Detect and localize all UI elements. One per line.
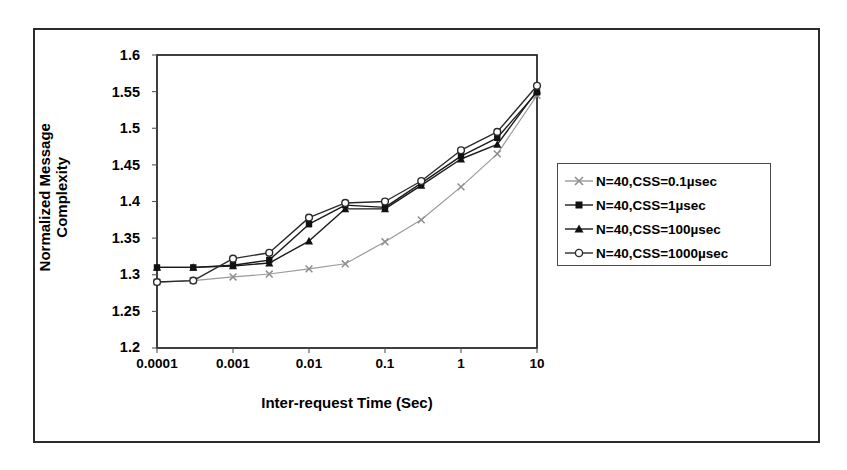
- series-1: [154, 89, 540, 270]
- legend-marker-square-icon: [564, 196, 594, 214]
- legend: N=40,CSS=0.1µsec N=40,CSS=1µsec: [557, 163, 771, 266]
- chart-area: Normalized Message Complexity 1.6 1.55 1…: [0, 0, 847, 470]
- series-2: [153, 87, 541, 271]
- legend-item-0[interactable]: N=40,CSS=0.1µsec: [558, 169, 770, 193]
- legend-label-1: N=40,CSS=1µsec: [596, 198, 706, 213]
- legend-item-3[interactable]: N=40,CSS=1000µsec: [558, 241, 770, 265]
- legend-marker-circle-icon: [564, 244, 594, 262]
- series-0: [154, 92, 541, 286]
- series-3: [154, 82, 541, 285]
- legend-label-2: N=40,CSS=100µsec: [596, 222, 721, 237]
- legend-item-2[interactable]: N=40,CSS=100µsec: [558, 217, 770, 241]
- legend-label-3: N=40,CSS=1000µsec: [596, 246, 728, 261]
- legend-item-1[interactable]: N=40,CSS=1µsec: [558, 193, 770, 217]
- figure-root: Normalized Message Complexity 1.6 1.55 1…: [0, 0, 847, 470]
- legend-marker-x-icon: [564, 172, 594, 190]
- legend-marker-triangle-icon: [564, 220, 594, 238]
- legend-label-0: N=40,CSS=0.1µsec: [596, 174, 717, 189]
